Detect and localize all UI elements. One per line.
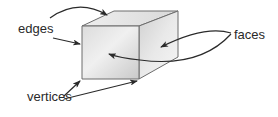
vertices-arrow-right [64, 81, 137, 99]
edges-label: edges [18, 22, 53, 35]
edges-arrow-top [50, 7, 107, 18]
cube-diagram: edges vertices faces [0, 0, 278, 117]
vertices-arrows [64, 81, 137, 99]
faces-label: faces [234, 28, 265, 41]
cube [82, 11, 178, 79]
cube-front-face [82, 26, 139, 79]
vertices-label: vertices [27, 90, 72, 103]
edges-arrow-left [53, 38, 80, 44]
